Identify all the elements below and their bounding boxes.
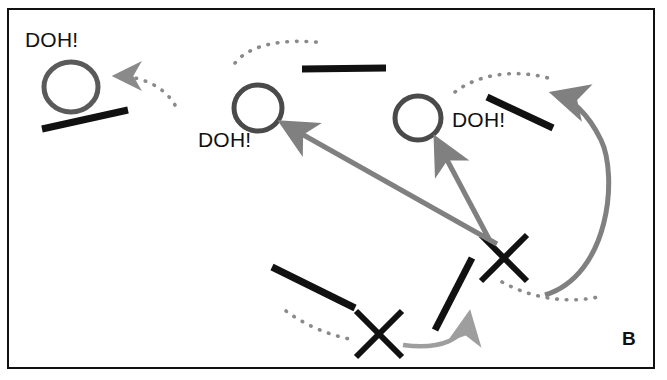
label-doh-top-left: DOH! bbox=[25, 28, 78, 52]
dotted-arc-bottom-left bbox=[286, 311, 355, 340]
circle-right bbox=[395, 96, 441, 140]
label-doh-middle: DOH! bbox=[198, 128, 251, 152]
bar-lower-left bbox=[272, 267, 355, 308]
bar-top-center bbox=[302, 68, 386, 69]
circle-middle bbox=[234, 85, 282, 131]
dotted-arc-top-left bbox=[116, 76, 175, 105]
x-mark-left bbox=[356, 311, 402, 357]
dotted-arc-right-upper bbox=[455, 74, 548, 92]
bar-top-left bbox=[42, 110, 128, 129]
curved-arrow-big-right bbox=[545, 94, 609, 295]
arrow-to-middle-circle bbox=[284, 124, 497, 244]
circle-top-left bbox=[44, 62, 98, 112]
figure-panel: DOH! DOH! DOH! B bbox=[0, 0, 667, 380]
label-doh-right: DOH! bbox=[452, 108, 505, 132]
panel-letter-label: B bbox=[622, 328, 636, 350]
x-mark-right bbox=[481, 235, 527, 281]
diagram-canvas bbox=[0, 0, 667, 380]
dotted-arc-top-center bbox=[235, 41, 325, 63]
